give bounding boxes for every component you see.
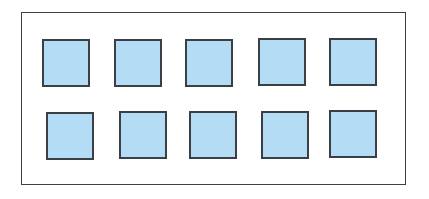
square-r2-c5 <box>329 110 377 158</box>
square-r2-c1 <box>46 112 94 160</box>
square-r1-c4 <box>258 38 306 86</box>
square-r1-c3 <box>185 39 233 87</box>
square-r1-c2 <box>114 39 162 87</box>
square-r2-c4 <box>261 111 309 159</box>
square-r1-c1 <box>42 39 90 87</box>
square-r1-c5 <box>329 38 377 86</box>
square-r2-c3 <box>189 111 237 159</box>
square-r2-c2 <box>119 111 167 159</box>
